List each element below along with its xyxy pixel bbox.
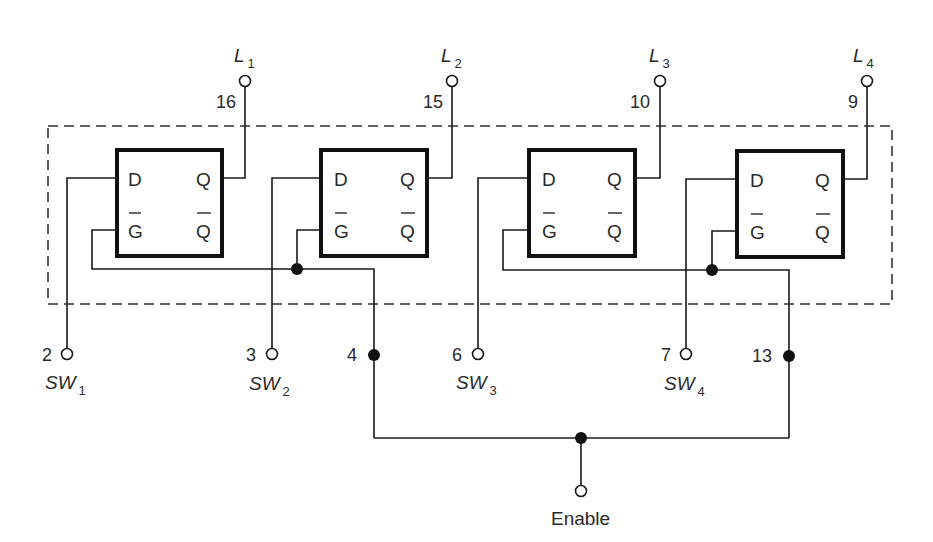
latch-1: D Q G Q 2 SW1 16 L1 [42, 45, 297, 398]
pin-4-junction[interactable] [368, 349, 380, 361]
pin-13-junction[interactable] [783, 350, 795, 362]
latch-2-g-label: G [334, 221, 349, 242]
latch-4-d-label: D [750, 170, 764, 191]
pin-15-label: 15 [423, 92, 443, 112]
l1-label: L1 [234, 45, 255, 71]
pin-7-label: 7 [661, 345, 671, 365]
latch-1-q-label: Q [196, 169, 211, 190]
latch-4: D Q G Q 7 SW4 9 L4 [661, 45, 874, 438]
latch-1-qbar-label: Q [196, 221, 211, 242]
pin-13-label: 13 [752, 346, 772, 366]
latch-4-g-wire [712, 231, 737, 270]
pin-16-label: 16 [216, 92, 236, 112]
pin-9-terminal[interactable] [862, 76, 873, 87]
latch-2-qbar-label: Q [400, 221, 415, 242]
pin-4-label: 4 [347, 345, 357, 365]
l4-label: L4 [853, 45, 874, 71]
latch-2-q-label: Q [400, 169, 415, 190]
enable-network: 4 13 Enable [347, 345, 795, 529]
latch-1-d-label: D [128, 169, 142, 190]
sw2-label: SW2 [249, 373, 290, 399]
latch-4-qbar-label: Q [815, 222, 830, 243]
latch-1-g-label: G [128, 221, 143, 242]
latch-3-q-label: Q [607, 169, 622, 190]
pin-10-terminal[interactable] [655, 76, 666, 87]
pin-7-terminal[interactable] [681, 349, 692, 360]
pin-2-terminal[interactable] [62, 349, 73, 360]
enable-label: Enable [551, 508, 610, 529]
latch-3-qbar-label: Q [607, 221, 622, 242]
pin-3-terminal[interactable] [267, 349, 278, 360]
latch-4-q-label: Q [815, 170, 830, 191]
pin-10-label: 10 [630, 92, 650, 112]
junction-g1-g2 [291, 263, 303, 275]
pin-3-label: 3 [246, 345, 256, 365]
latch-2: D Q G Q 3 SW2 15 L2 [246, 45, 462, 438]
sw4-label: SW4 [664, 373, 705, 399]
latch-2-d-label: D [334, 169, 348, 190]
enable-bus-right [712, 270, 789, 438]
l2-label: L2 [441, 45, 462, 71]
junction-g3-g4 [706, 264, 718, 276]
sw3-label: SW3 [456, 372, 497, 398]
enable-terminal[interactable] [576, 486, 587, 497]
l3-label: L3 [649, 45, 670, 71]
enable-bus-left [297, 269, 374, 438]
pin-15-terminal[interactable] [447, 76, 458, 87]
latch-3-d-label: D [542, 169, 556, 190]
pin-6-label: 6 [452, 345, 462, 365]
pin-9-label: 9 [848, 92, 858, 112]
sw1-label: SW1 [45, 372, 86, 398]
latch-3: D Q G Q 6 SW3 10 L3 [452, 45, 712, 398]
latch-3-g-label: G [542, 221, 557, 242]
latch-4-g-label: G [750, 222, 765, 243]
pin-2-label: 2 [42, 345, 52, 365]
pin-6-terminal[interactable] [473, 349, 484, 360]
quad-latch-schematic: D Q G Q 2 SW1 16 L1 D Q G Q 3 SW2 [0, 0, 933, 542]
pin-16-terminal[interactable] [240, 76, 251, 87]
latch-2-g-wire [297, 230, 321, 269]
